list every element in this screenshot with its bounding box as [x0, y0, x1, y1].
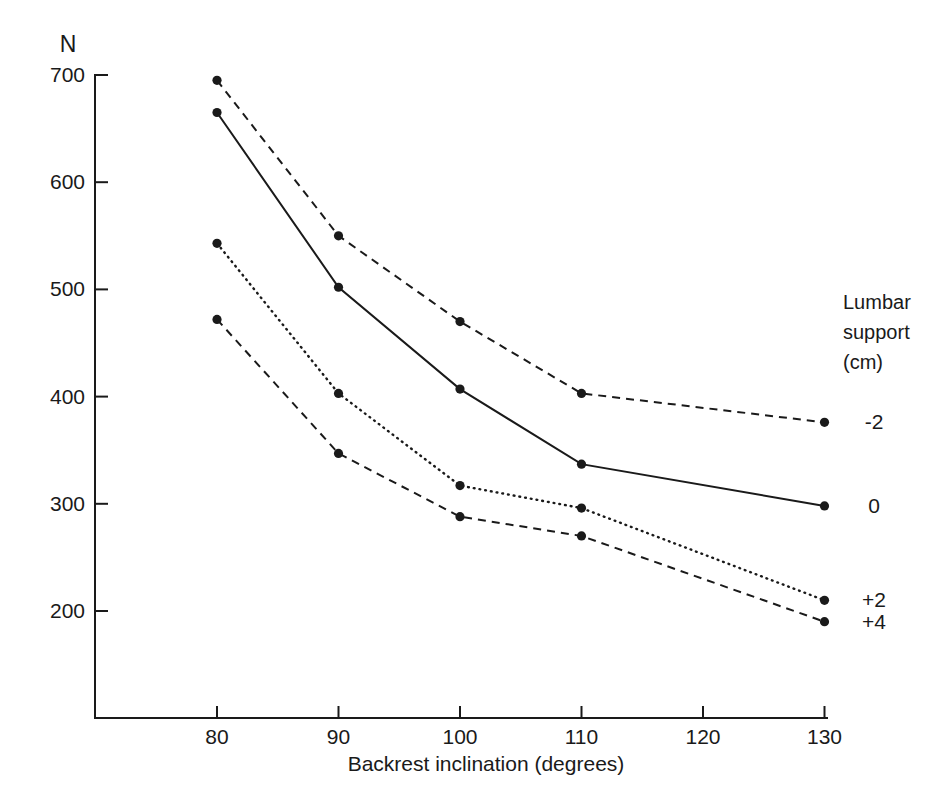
data-point-0	[212, 108, 221, 117]
data-point--2	[820, 418, 829, 427]
data-point-0	[820, 501, 829, 510]
x-tick-label: 130	[807, 725, 842, 748]
data-point--2	[577, 389, 586, 398]
legend-title-line: support	[843, 317, 911, 347]
legend-title-line: (cm)	[843, 347, 911, 377]
legend-label-minus2: -2	[845, 409, 903, 435]
y-tick-label: 400	[50, 385, 85, 408]
legend-title: Lumbar support (cm)	[843, 287, 911, 377]
series-line-+4	[217, 319, 825, 621]
x-tick-label: 120	[685, 725, 720, 748]
data-point-+2	[212, 239, 221, 248]
series-line-0	[217, 113, 825, 506]
legend-label-zero: 0	[845, 493, 903, 519]
data-point-0	[334, 283, 343, 292]
y-tick-label: 500	[50, 277, 85, 300]
x-tick-label: 80	[205, 725, 228, 748]
x-tick-label: 100	[442, 725, 477, 748]
data-point-+4	[455, 512, 464, 521]
chart-figure: 2003004005006007008090100110120130 N Bac…	[0, 0, 931, 807]
x-axis-title: Backrest inclination (degrees)	[240, 752, 732, 776]
x-tick-label: 90	[327, 725, 350, 748]
legend-title-line: Lumbar	[843, 287, 911, 317]
data-point-+4	[334, 449, 343, 458]
data-point-+2	[455, 481, 464, 490]
y-tick-label: 700	[50, 63, 85, 86]
y-tick-label: 300	[50, 492, 85, 515]
y-axis-title: N	[46, 31, 90, 58]
axes-lines	[95, 74, 828, 718]
x-tick-label: 110	[565, 725, 598, 748]
series-line-+2	[217, 243, 825, 600]
data-point--2	[455, 317, 464, 326]
data-point--2	[334, 231, 343, 240]
y-tick-label: 200	[50, 599, 85, 622]
data-point-+2	[577, 503, 586, 512]
data-point--2	[212, 76, 221, 85]
data-point-+2	[820, 596, 829, 605]
data-point-+4	[820, 617, 829, 626]
legend-label-plus4: +4	[845, 609, 903, 635]
chart-canvas: 2003004005006007008090100110120130	[0, 0, 931, 807]
data-point-0	[455, 384, 464, 393]
series-line--2	[217, 80, 825, 422]
data-point-+4	[577, 531, 586, 540]
data-point-+2	[334, 389, 343, 398]
data-point-0	[577, 460, 586, 469]
data-point-+4	[212, 315, 221, 324]
y-tick-label: 600	[50, 170, 85, 193]
